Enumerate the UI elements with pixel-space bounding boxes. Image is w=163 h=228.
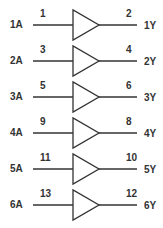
input-pin-number: 1 [40, 9, 46, 19]
input-label: 3A [10, 92, 23, 102]
output-pin-number: 2 [126, 9, 132, 19]
buffer-gate-4: 4A 9 8 4Y [0, 115, 163, 151]
buffer-triangle-icon [0, 115, 163, 151]
output-label: 1Y [144, 21, 156, 31]
buffer-gate-1: 1A 1 2 1Y [0, 7, 163, 43]
output-label: 2Y [144, 57, 156, 67]
input-label: 1A [10, 20, 23, 30]
input-pin-number: 13 [40, 189, 51, 199]
buffer-triangle-icon [0, 79, 163, 115]
buffer-triangle-icon [0, 43, 163, 79]
buffer-gate-2: 2A 3 4 2Y [0, 43, 163, 79]
input-label: 2A [10, 56, 23, 66]
output-label: 4Y [144, 129, 156, 139]
output-label: 5Y [144, 165, 156, 175]
input-pin-number: 11 [40, 153, 51, 163]
buffer-triangle-icon [0, 151, 163, 187]
input-label: 4A [10, 128, 23, 138]
output-pin-number: 6 [126, 81, 132, 91]
output-pin-number: 8 [126, 117, 132, 127]
output-pin-number: 4 [126, 45, 132, 55]
input-pin-number: 5 [40, 81, 46, 91]
buffer-gate-6: 6A 13 12 6Y [0, 187, 163, 223]
input-label: 6A [10, 200, 23, 210]
buffer-triangle-icon [0, 187, 163, 223]
input-label: 5A [10, 164, 23, 174]
buffer-gate-5: 5A 11 10 5Y [0, 151, 163, 187]
output-label: 6Y [144, 201, 156, 211]
output-pin-number: 10 [126, 153, 137, 163]
buffer-triangle-icon [0, 7, 163, 43]
input-pin-number: 3 [40, 45, 46, 55]
input-pin-number: 9 [40, 117, 46, 127]
buffer-gate-3: 3A 5 6 3Y [0, 79, 163, 115]
output-label: 3Y [144, 93, 156, 103]
output-pin-number: 12 [126, 189, 137, 199]
